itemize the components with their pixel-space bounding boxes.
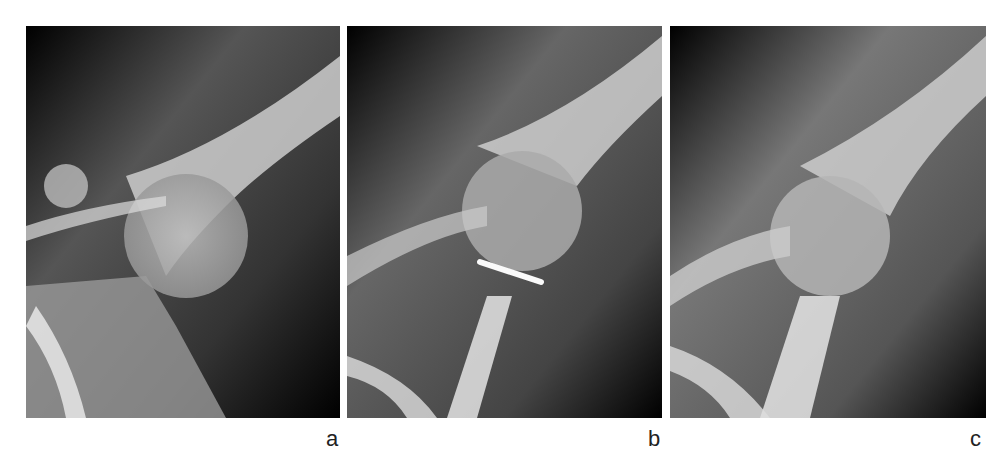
panel-label-c: c: [970, 426, 981, 452]
xray-panel-a: [26, 26, 340, 418]
panel-label-a: a: [326, 426, 338, 452]
xray-panel-c: [670, 26, 986, 418]
panel-label-b: b: [648, 426, 660, 452]
xray-panel-b: [347, 26, 662, 418]
